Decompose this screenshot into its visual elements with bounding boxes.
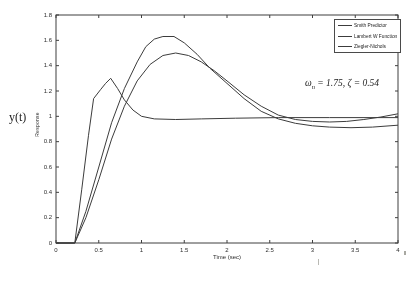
omega-symbol: ω xyxy=(305,78,312,88)
x-tick-label: 2 xyxy=(217,247,237,254)
x-tick-label: 1.5 xyxy=(174,247,194,254)
x-tick-label: 1 xyxy=(132,247,152,254)
legend-item: Lambert W Function xyxy=(338,32,400,41)
scan-artifact xyxy=(318,259,319,265)
x-tick-label: 3 xyxy=(303,247,323,254)
y-tick-label: 1.2 xyxy=(36,88,52,95)
parameters-annotation: ωn = 1.75, ζ = 0.54 xyxy=(294,78,390,90)
legend-label: Smith Predictor xyxy=(354,23,387,28)
y-tick-label: 0.6 xyxy=(36,164,52,171)
legend-label: Lambert W Function xyxy=(354,33,397,38)
legend-item: Smith Predictor xyxy=(338,21,400,30)
annotation-values: = 1.75, ζ = 0.54 xyxy=(315,78,379,88)
x-axis-label: Time (sec) xyxy=(56,254,398,260)
x-tick-label: 4 xyxy=(388,247,408,254)
legend-line-sample xyxy=(338,36,352,37)
curve-smith-predictor xyxy=(56,78,398,243)
step-response-figure: y(t) Response Time (sec) ωn = 1.75, ζ = … xyxy=(0,0,411,281)
legend-item: Ziegler-Nichols xyxy=(338,42,400,51)
curve-ziegler-nichols xyxy=(56,37,398,244)
x-tick-label: 2.5 xyxy=(260,247,280,254)
legend-line-sample xyxy=(338,25,352,26)
x-tick-label: 3.5 xyxy=(345,247,365,254)
x-tick-label: 0.5 xyxy=(89,247,109,254)
y-tick-label: 0.2 xyxy=(36,214,52,221)
y-tick-label: 1.4 xyxy=(36,62,52,69)
x-tick-label: 0 xyxy=(46,247,66,254)
legend-label: Ziegler-Nichols xyxy=(354,44,386,49)
y-tick-label: 0.8 xyxy=(36,138,52,145)
y-tick-label: 1.8 xyxy=(36,12,52,19)
legend-line-sample xyxy=(338,46,352,47)
y-tick-label: 1 xyxy=(36,113,52,120)
y-axis-label: y(t) xyxy=(9,110,26,125)
y-tick-label: 0.4 xyxy=(36,189,52,196)
legend: Smith PredictorLambert W FunctionZiegler… xyxy=(334,19,401,53)
y-tick-label: 1.6 xyxy=(36,37,52,44)
y-tick-label: 0 xyxy=(36,240,52,247)
